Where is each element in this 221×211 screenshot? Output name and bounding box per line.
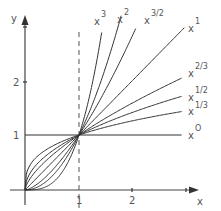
y-tick-1: 1 — [13, 130, 19, 141]
curve-x-3-2 — [25, 29, 136, 190]
y-axis-label: y — [11, 13, 17, 24]
curve-x-3 — [25, 33, 102, 190]
svg-text:O: O — [195, 124, 201, 133]
svg-text:1: 1 — [195, 17, 200, 26]
label-x3: x 3 — [94, 10, 106, 27]
svg-text:x: x — [188, 68, 194, 79]
svg-text:2: 2 — [124, 8, 129, 17]
svg-text:1/2: 1/2 — [195, 86, 208, 95]
curve-x-2 — [25, 16, 121, 190]
label-x2: x 2 — [117, 8, 129, 25]
label-x0: x O — [188, 124, 201, 141]
y-axis-arrow-icon — [22, 15, 29, 25]
y-tick-2: 2 — [13, 77, 19, 88]
label-x1: x 1 — [188, 17, 200, 34]
svg-text:3: 3 — [101, 10, 106, 19]
x-tick-1: 1 — [76, 195, 82, 206]
power-functions-chart: 1 2 1 2 x y x 3 x 2 x 3/2 x 1 x 2/3 x 1/… — [0, 0, 221, 211]
curve-x-1 — [25, 28, 184, 190]
x-tick-2: 2 — [129, 195, 135, 206]
label-x2-3: x 2/3 — [188, 62, 208, 79]
x-axis-arrow-icon — [189, 187, 199, 194]
svg-text:x: x — [188, 23, 194, 34]
svg-text:x: x — [94, 16, 100, 27]
svg-text:x: x — [188, 130, 194, 141]
svg-text:1/3: 1/3 — [195, 101, 208, 110]
x-axis-label: x — [197, 196, 203, 207]
svg-text:2/3: 2/3 — [195, 62, 208, 71]
svg-text:3/2: 3/2 — [151, 9, 164, 18]
label-x1-3: x 1/3 — [188, 101, 208, 117]
svg-text:x: x — [117, 14, 123, 25]
svg-text:x: x — [188, 106, 194, 117]
svg-text:x: x — [144, 15, 150, 26]
label-x3-2: x 3/2 — [144, 9, 164, 26]
svg-text:x: x — [188, 92, 194, 103]
curves — [25, 16, 184, 190]
